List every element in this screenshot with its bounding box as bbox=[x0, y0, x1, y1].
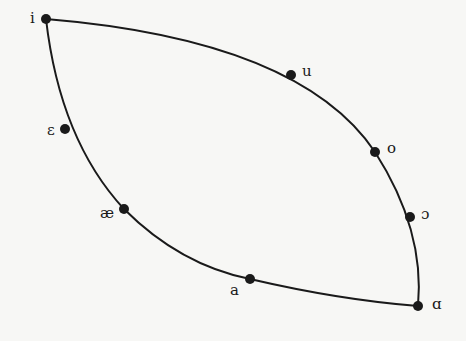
vowel-point-a bbox=[245, 274, 255, 284]
vowel-point-i bbox=[41, 14, 51, 24]
vowel-label-open-o: ɔ bbox=[421, 207, 429, 222]
vowel-diagram: iuoɔɑaæε bbox=[0, 0, 466, 341]
vowel-label-u: u bbox=[302, 64, 312, 79]
vowel-label-epsilon: ε bbox=[47, 123, 55, 138]
vowel-point-u bbox=[286, 70, 296, 80]
vowel-point-epsilon bbox=[60, 124, 70, 134]
vowel-point-ae bbox=[119, 204, 129, 214]
vowel-point-ɑ bbox=[413, 301, 423, 311]
vowel-label-o: o bbox=[387, 141, 396, 156]
vowel-point-o bbox=[370, 147, 380, 157]
vowel-label-ɑ: ɑ bbox=[432, 297, 442, 312]
vowel-label-a: a bbox=[230, 283, 239, 298]
vowel-point-open-o bbox=[405, 212, 415, 222]
vowel-label-i: i bbox=[30, 11, 35, 26]
vowel-label-ae: æ bbox=[100, 206, 114, 221]
